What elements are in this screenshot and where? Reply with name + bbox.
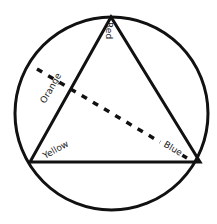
outer-circle [15,17,208,210]
label-red: Red [104,22,114,39]
color-triangle-diagram: Red Orange Yellow Blue [0,0,217,224]
label-yellow: Yellow [40,139,70,162]
